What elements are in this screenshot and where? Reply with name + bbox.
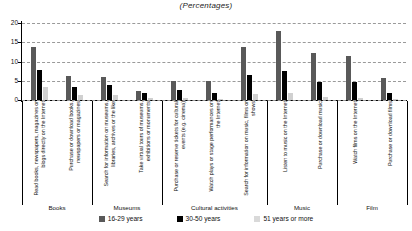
- group-separator: [407, 101, 408, 205]
- legend-swatch-icon: [177, 216, 183, 222]
- legend-label: 51 years or more: [263, 215, 313, 222]
- bar: [66, 76, 71, 100]
- bar: [183, 98, 188, 100]
- legend-label: 16-29 years: [108, 215, 143, 222]
- bar: [113, 95, 118, 100]
- bar: [148, 98, 153, 100]
- group-separator: [162, 101, 163, 205]
- legend-item[interactable]: 30-50 years: [177, 215, 221, 222]
- y-axis-tick-label: 5: [2, 78, 18, 85]
- bar: [323, 97, 328, 100]
- bar: [136, 91, 141, 100]
- y-axis-tick-label: 20: [2, 20, 18, 27]
- legend-swatch-icon: [99, 216, 105, 222]
- bar: [317, 82, 322, 100]
- bar: [31, 47, 36, 101]
- bar-group: [346, 23, 363, 100]
- bar: [276, 31, 281, 100]
- bar-group: [31, 23, 48, 100]
- bar-group: [276, 23, 293, 100]
- bar: [78, 95, 83, 100]
- bar: [387, 93, 392, 100]
- bar: [358, 98, 363, 100]
- legend-swatch-icon: [254, 216, 260, 222]
- legend-item[interactable]: 16-29 years: [99, 215, 143, 222]
- bar: [107, 85, 112, 100]
- chart-title: (Percentages): [0, 1, 412, 10]
- group-separator: [92, 101, 93, 205]
- legend-item[interactable]: 51 years or more: [254, 215, 313, 222]
- bar: [346, 56, 351, 100]
- chart-legend: 16-29 years30-50 years51 years or more: [0, 215, 412, 222]
- bar: [288, 93, 293, 100]
- bar: [43, 87, 48, 100]
- bar: [206, 81, 211, 100]
- group-axis: BooksMuseumsCultural activitiesMusicFilm: [22, 101, 407, 213]
- bars-layer: [22, 23, 407, 100]
- group-separator: [337, 101, 338, 205]
- bar-group: [311, 23, 328, 100]
- y-axis-tick-label: 10: [2, 59, 18, 66]
- group-label: Music: [294, 204, 310, 211]
- bar: [282, 71, 287, 100]
- bar: [393, 99, 398, 100]
- bar-group: [101, 23, 118, 100]
- bar: [72, 87, 77, 100]
- bar-group: [381, 23, 398, 100]
- bar: [37, 70, 42, 100]
- y-axis-tick-label: 15: [2, 39, 18, 46]
- y-axis-tick-label: 0: [2, 97, 18, 104]
- group-separator: [22, 101, 23, 205]
- bar: [247, 75, 252, 100]
- bar: [101, 77, 106, 100]
- bar: [212, 93, 217, 100]
- bar-group: [171, 23, 188, 100]
- group-label: Books: [48, 204, 65, 211]
- bar: [177, 90, 182, 100]
- bar: [241, 47, 246, 101]
- bar-group: [241, 23, 258, 100]
- bar-group: [206, 23, 223, 100]
- bar-group: [136, 23, 153, 100]
- group-separator: [267, 101, 268, 205]
- group-label: Cultural activities: [191, 204, 238, 211]
- bar: [311, 53, 316, 100]
- bar-group: [66, 23, 83, 100]
- group-label: Film: [366, 204, 378, 211]
- bar: [253, 94, 258, 100]
- bar: [352, 82, 357, 100]
- bar: [171, 81, 176, 100]
- group-label: Museums: [114, 204, 141, 211]
- legend-label: 30-50 years: [186, 215, 221, 222]
- bar: [381, 78, 386, 100]
- bar: [218, 99, 223, 100]
- bar: [142, 93, 147, 100]
- chart-container: (Percentages) 05101520 Read books, newsp…: [0, 0, 412, 231]
